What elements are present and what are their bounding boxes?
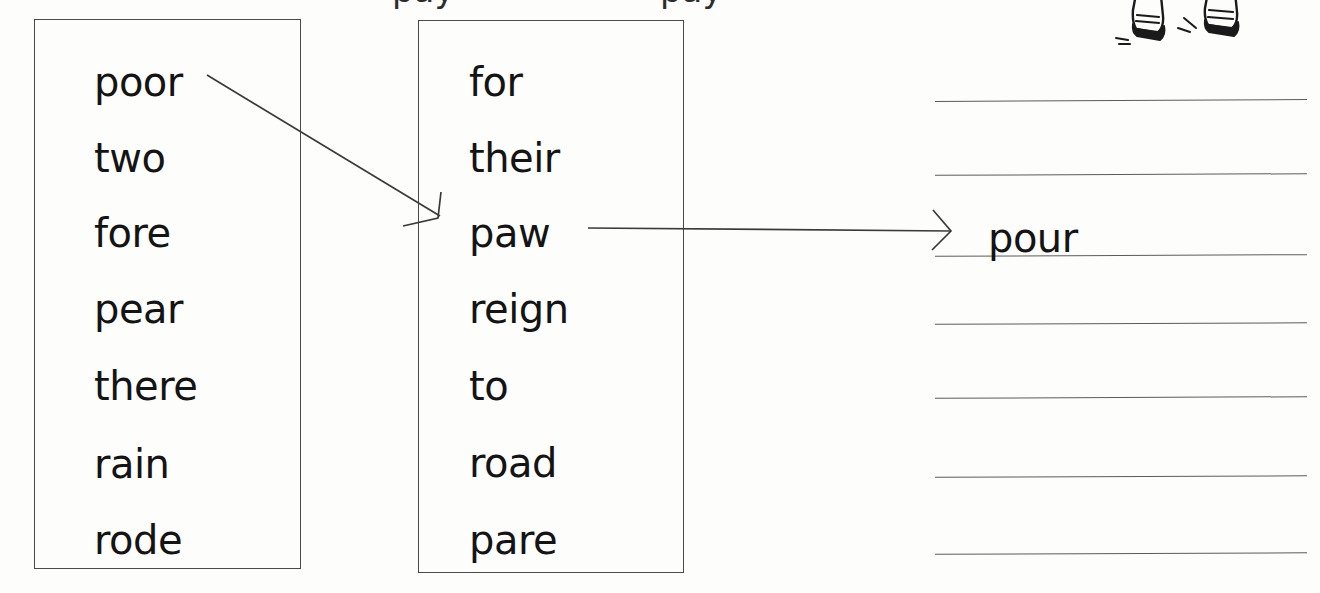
right-word-box: for their paw reign to road pare xyxy=(418,20,684,573)
word-item[interactable]: pear xyxy=(94,289,183,329)
word-item[interactable]: poor xyxy=(94,62,183,102)
answer-line[interactable] xyxy=(935,173,1307,176)
word-item[interactable]: there xyxy=(94,366,197,406)
word-item[interactable]: road xyxy=(469,443,557,483)
heading-remnant-text-2: pay xyxy=(660,0,723,10)
word-item[interactable]: their xyxy=(469,138,560,178)
word-item[interactable]: rain xyxy=(94,444,169,484)
word-item[interactable]: for xyxy=(469,62,523,102)
word-item[interactable]: fore xyxy=(94,213,171,253)
answer-line[interactable] xyxy=(935,396,1307,399)
left-shoe-icon xyxy=(1116,0,1165,44)
answer-line[interactable] xyxy=(935,322,1307,324)
word-item[interactable]: to xyxy=(469,366,508,406)
heading-remnant-text: pay xyxy=(392,0,455,10)
word-item[interactable]: reign xyxy=(469,289,569,329)
worksheet-page: pay pay poor two fore pear there rain ro… xyxy=(0,0,1320,593)
answer-line[interactable] xyxy=(935,552,1307,554)
right-shoe-icon xyxy=(1178,0,1239,36)
word-item[interactable]: two xyxy=(94,138,165,178)
left-word-box: poor two fore pear there rain rode xyxy=(34,19,301,569)
answer-line[interactable] xyxy=(935,99,1307,102)
word-item[interactable]: pare xyxy=(469,520,557,560)
answer-word-pour[interactable]: pour xyxy=(988,218,1078,258)
shoes-clipart xyxy=(1106,0,1286,62)
word-item[interactable]: paw xyxy=(469,213,550,253)
word-item[interactable]: rode xyxy=(94,520,182,560)
answer-line[interactable] xyxy=(935,475,1307,477)
